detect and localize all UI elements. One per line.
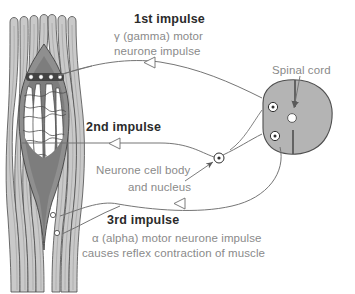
spindle-nerve-endings [26, 73, 64, 81]
impulse3-heading: 3rd impulse [107, 213, 179, 228]
impulse1-line2: neurone impulse [114, 44, 201, 59]
cell-body-line1: Neurone cell body [96, 163, 190, 178]
neurone-cell-body-marker [214, 153, 224, 163]
impulse2-arrowhead [109, 138, 120, 149]
impulse2-heading: 2nd impulse [86, 120, 161, 135]
impulse1-line1: γ (gamma) motor [114, 29, 203, 44]
dorsal-branch [230, 110, 262, 150]
impulse3-line2: causes reflex contraction of muscle [82, 246, 265, 261]
impulse1-arrowhead [144, 57, 155, 68]
spinal-cord-label: Spinal cord [272, 63, 331, 78]
cellbody-to-cord [223, 134, 262, 155]
impulse3-line1: α (alpha) motor neurone impulse [92, 231, 262, 246]
impulse1-path [58, 61, 262, 98]
impulse1-heading: 1st impulse [134, 12, 205, 27]
cell-body-line2: and nucleus [128, 180, 191, 195]
diagram-canvas: 1st impulse γ (gamma) motor neurone impu… [0, 0, 355, 294]
impulse3-arrowhead [174, 198, 185, 209]
